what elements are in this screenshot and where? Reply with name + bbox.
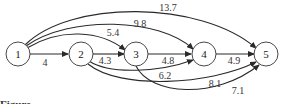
edge-label-1-5: 13.7 xyxy=(159,2,177,13)
edge-label-4-5: 4.9 xyxy=(228,55,241,66)
edge-label-1-4: 9.8 xyxy=(134,18,147,29)
node-5: 5 xyxy=(254,42,278,66)
node-4: 4 xyxy=(192,42,216,66)
edge-label-2-4: 6.2 xyxy=(159,70,172,81)
edge-label-3-4: 4.8 xyxy=(162,55,175,66)
graph-diagram: 4 5.4 9.8 13.7 4.3 6.2 8.1 4.8 7.1 4.9 1… xyxy=(0,0,283,104)
figure-caption: Figure xyxy=(0,98,31,104)
svg-text:4: 4 xyxy=(201,48,207,60)
node-3: 3 xyxy=(124,42,148,66)
svg-text:1: 1 xyxy=(15,48,21,60)
node-1: 1 xyxy=(6,42,30,66)
svg-text:2: 2 xyxy=(78,48,84,60)
node-2: 2 xyxy=(69,42,93,66)
edge-label-2-5: 8.1 xyxy=(209,78,222,89)
svg-text:3: 3 xyxy=(133,48,139,60)
svg-text:5: 5 xyxy=(263,48,269,60)
edge-label-1-2: 4 xyxy=(43,57,48,68)
edge-label-2-3: 4.3 xyxy=(99,55,112,66)
edge-label-3-5: 7.1 xyxy=(232,85,245,96)
edge-label-1-3: 5.4 xyxy=(107,27,120,38)
